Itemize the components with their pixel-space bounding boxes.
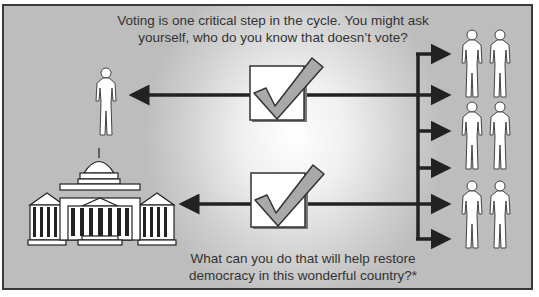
person-icon bbox=[462, 181, 482, 248]
person-icon bbox=[462, 30, 482, 97]
diagram-artwork bbox=[0, 0, 539, 297]
person-icon bbox=[96, 68, 116, 135]
checkmark-checkbox-icon bbox=[250, 58, 323, 122]
person-icon bbox=[462, 102, 482, 169]
arrows-right bbox=[416, 54, 448, 239]
person-icon bbox=[490, 181, 510, 248]
person-icon bbox=[490, 102, 510, 169]
capitol-building-icon bbox=[28, 148, 176, 245]
checkmark-checkbox-icon bbox=[251, 165, 324, 229]
person-icon bbox=[490, 30, 510, 97]
